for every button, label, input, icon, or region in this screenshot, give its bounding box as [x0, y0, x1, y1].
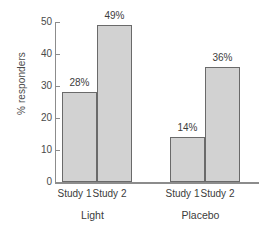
- x-label-light-study-2: Study 2: [87, 189, 132, 199]
- y-tick-label-10: 10: [28, 145, 52, 155]
- bar-placebo-study-1[interactable]: [170, 137, 205, 182]
- x-axis-line: [55, 182, 259, 184]
- y-tick-label-20-wrap: 20: [26, 113, 52, 123]
- bar-value-placebo-study-2: 36%: [200, 53, 245, 63]
- y-tick-label-20: 20: [28, 113, 52, 123]
- plot-area: 28% 49% 14% 36%: [55, 22, 259, 182]
- bar-light-study-2[interactable]: [97, 25, 132, 182]
- bar-value-light-study-2: 49%: [92, 11, 137, 21]
- y-tick-label-0-wrap: 0: [26, 177, 52, 187]
- x-label-placebo-study-2: Study 2: [195, 189, 240, 199]
- y-tick-label-50-wrap: 50: [26, 17, 52, 27]
- group-label-light: Light: [70, 210, 115, 221]
- y-tick-label-30: 30: [28, 81, 52, 91]
- bar-placebo-study-2[interactable]: [205, 67, 240, 182]
- bar-chart: % responders 0 10 20 30 40 50 28% 49% 14…: [0, 0, 272, 232]
- y-tick-label-30-wrap: 30: [26, 81, 52, 91]
- group-label-placebo: Placebo: [178, 210, 223, 221]
- y-axis-title: % responders: [16, 24, 27, 144]
- bar-light-study-1[interactable]: [62, 92, 97, 182]
- bar-value-light-study-1: 28%: [57, 78, 102, 88]
- bar-value-placebo-study-1: 14%: [165, 123, 210, 133]
- y-tick-label-40: 40: [28, 49, 52, 59]
- y-tick-label-50: 50: [28, 17, 52, 27]
- y-tick-label-40-wrap: 40: [26, 49, 52, 59]
- y-tick-label-10-wrap: 10: [26, 145, 52, 155]
- y-tick-label-0: 0: [28, 177, 52, 187]
